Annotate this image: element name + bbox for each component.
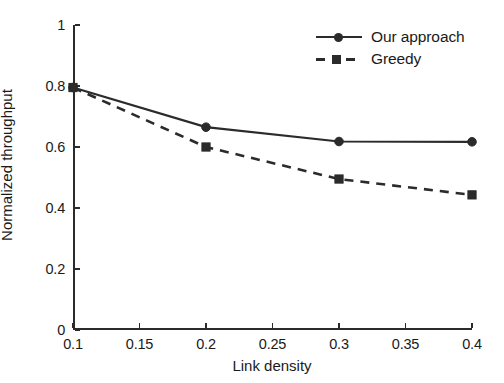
data-point-circle xyxy=(335,137,344,146)
x-tick-label: 0.1 xyxy=(63,336,83,352)
y-tick-label: 0.8 xyxy=(45,78,65,94)
chart-legend: Our approach Greedy xyxy=(316,26,465,70)
legend-label-our-approach: Our approach xyxy=(371,28,465,46)
x-tick-label: 0.2 xyxy=(196,336,216,352)
dashed-line-icon xyxy=(316,58,325,61)
circle-marker-icon xyxy=(334,33,343,42)
legend-item-our-approach: Our approach xyxy=(316,26,465,48)
data-point-square xyxy=(468,191,476,199)
legend-sample-dashed-square xyxy=(316,53,362,65)
x-axis-title: Link density xyxy=(232,357,311,374)
data-point-circle xyxy=(468,138,477,147)
data-point-square xyxy=(202,143,210,151)
y-tick-label: 0.2 xyxy=(45,261,65,277)
x-tick-label: 0.25 xyxy=(259,336,286,352)
plot-area: 00.20.40.60.81 0.10.150.20.250.30.350.4 xyxy=(73,25,472,330)
x-tick-label: 0.35 xyxy=(392,336,419,352)
legend-sample-solid-circle xyxy=(316,31,362,43)
y-tick-label: 1 xyxy=(57,17,65,33)
data-series-layer xyxy=(73,25,472,330)
x-tick-label: 0.15 xyxy=(126,336,153,352)
square-marker-icon xyxy=(332,55,341,64)
x-tick-label: 0.3 xyxy=(329,336,349,352)
chart-figure: Normalized throughput Link density 00.20… xyxy=(0,0,504,383)
y-tick-label: 0.6 xyxy=(45,139,65,155)
legend-item-greedy: Greedy xyxy=(316,48,465,70)
dashed-line-icon xyxy=(346,58,355,61)
y-tick-label: 0.4 xyxy=(45,200,65,216)
y-axis-title: Normalized throughput xyxy=(0,89,15,241)
legend-label-greedy: Greedy xyxy=(371,50,421,68)
data-point-circle xyxy=(202,123,211,132)
x-tick-label: 0.4 xyxy=(462,336,482,352)
data-point-square xyxy=(335,175,343,183)
data-point-square xyxy=(69,83,77,91)
